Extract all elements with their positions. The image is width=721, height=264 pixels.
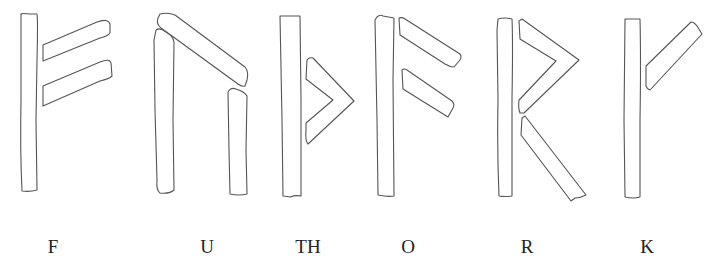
raidho-staff <box>497 18 513 197</box>
raidho-leg <box>521 116 586 201</box>
rune-label-o: O <box>378 236 438 258</box>
ansuz-branch-upper <box>399 18 461 67</box>
rune-label-f: F <box>23 236 83 258</box>
fehu-branch-lower <box>43 60 112 106</box>
fehu-staff <box>21 14 38 192</box>
rune-kaunan <box>624 19 702 198</box>
kaunan-staff <box>624 19 641 198</box>
rune-fehu <box>21 14 112 192</box>
thurisaz-staff <box>280 16 301 197</box>
rune-raidho <box>497 18 586 201</box>
rune-label-th: TH <box>278 236 338 258</box>
rune-diagram: F U TH O R K <box>0 0 721 264</box>
rune-thurisaz <box>280 16 354 197</box>
kaunan-branch <box>646 22 702 90</box>
ansuz-branch-lower <box>402 69 454 117</box>
rune-label-r: R <box>497 236 557 258</box>
uruz-staff-right <box>228 88 247 195</box>
rune-label-u: U <box>177 236 237 258</box>
rune-drawings <box>0 0 721 264</box>
rune-ansuz <box>375 15 461 196</box>
raidho-bow <box>519 19 579 113</box>
rune-uruz <box>154 13 248 195</box>
uruz-staff-left <box>154 29 174 193</box>
ansuz-staff <box>375 15 394 196</box>
fehu-branch-upper <box>43 20 110 61</box>
thurisaz-thorn <box>306 58 354 144</box>
rune-label-k: K <box>617 236 677 258</box>
